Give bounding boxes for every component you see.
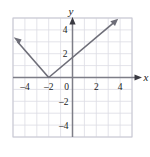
x-tick-label: –2 xyxy=(43,82,54,92)
x-axis-label: x xyxy=(143,71,149,83)
y-tick-label: 2 xyxy=(63,49,68,59)
x-tick-label: 2 xyxy=(94,82,99,92)
x-tick-label: –4 xyxy=(19,82,30,92)
graph-figure: –4 –2 2 4 0 4 2 –2 –4 y x xyxy=(0,0,150,157)
origin-label: 0 xyxy=(64,82,69,92)
coordinate-plane-svg: –4 –2 2 4 0 4 2 –2 –4 y x xyxy=(0,0,150,157)
y-tick-label: 4 xyxy=(63,25,68,35)
y-tick-label: –4 xyxy=(58,121,69,131)
y-axis-label: y xyxy=(68,5,74,17)
x-tick-label: 4 xyxy=(118,82,123,92)
y-tick-label: –2 xyxy=(58,97,69,107)
